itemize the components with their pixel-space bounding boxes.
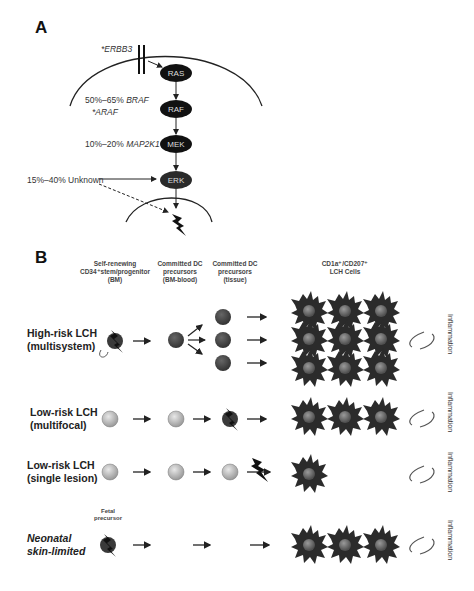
- map2k1-percent: 10%–20%: [85, 139, 126, 149]
- node-ras: RAS: [168, 69, 184, 78]
- column-header-bm-blood: Committed DC precursors (BM-blood): [150, 260, 210, 284]
- annotation-erbb3: *ERBB3: [101, 44, 132, 54]
- fetal-precursor-label: Fetal precursor: [88, 508, 128, 522]
- annotation-unknown: 15%–40% Unknown: [27, 175, 104, 185]
- pathway-diagram: RAS RAF MEK ERK: [0, 0, 474, 591]
- annotation-araf: *ARAF: [92, 107, 118, 117]
- node-erk: ERK: [168, 176, 185, 185]
- row-label-multifocal: Low-risk LCH (multifocal): [30, 406, 98, 432]
- erbb3-text: *ERBB3: [101, 44, 132, 54]
- column-header-tissue: Committed DC precursors (tissue): [205, 260, 265, 284]
- inflammation-label-row1: Inflammation: [447, 314, 454, 354]
- node-mek: MEK: [167, 140, 185, 149]
- braf-gene: BRAF: [126, 95, 149, 105]
- inflammation-label-row2: Inflammation: [447, 392, 454, 432]
- annotation-map2k1: 10%–20% MAP2K1: [85, 139, 160, 149]
- annotation-braf: 50%–65% BRAF: [85, 95, 149, 105]
- row-label-high-risk: High-risk LCH (multisystem): [27, 327, 97, 353]
- braf-percent: 50%–65%: [85, 95, 126, 105]
- inflammation-label-row3: Inflammation: [447, 452, 454, 492]
- araf-text: *ARAF: [92, 107, 118, 117]
- inflammation-label-row4: Inflammation: [447, 520, 454, 560]
- column-header-lch-cells: CD1a⁺/CD207⁺ LCH Cells: [310, 260, 380, 276]
- column-header-stem: Self-renewing CD34⁺stem/progenitor (BM): [70, 260, 160, 284]
- row-label-single-lesion: Low-risk LCH (single lesion): [27, 459, 98, 485]
- map2k1-gene: MAP2K1: [126, 139, 160, 149]
- row-label-neonatal: Neonatal skin-limited: [27, 532, 85, 558]
- node-raf: RAF: [168, 105, 184, 114]
- panel-b-label: B: [35, 248, 47, 268]
